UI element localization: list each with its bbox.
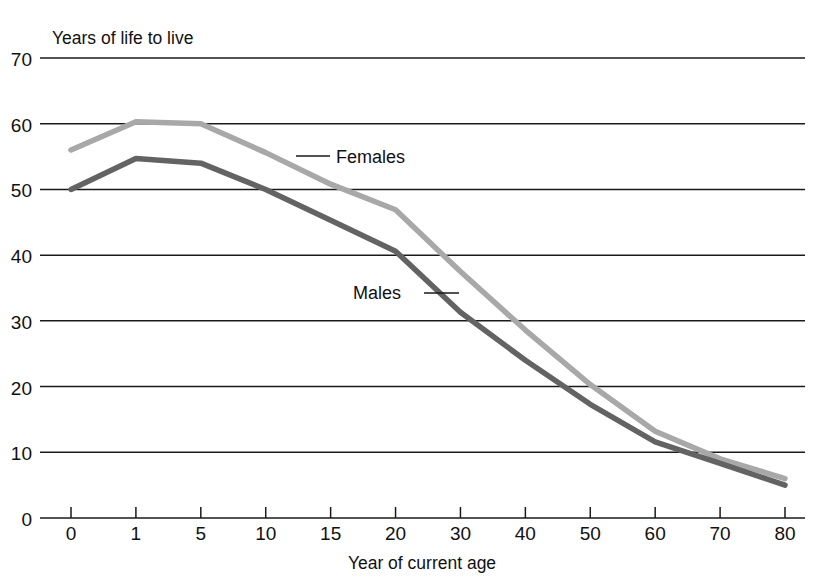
y-tick-label-0: 0 bbox=[21, 509, 32, 530]
females-label: Females bbox=[336, 147, 405, 167]
x-tick-label-20: 20 bbox=[385, 523, 406, 544]
males-label: Males bbox=[353, 283, 401, 303]
y-tick-label-40: 40 bbox=[11, 246, 32, 267]
x-tick-label-15: 15 bbox=[320, 523, 341, 544]
x-tick-label-30: 30 bbox=[450, 523, 471, 544]
x-tick-label-60: 60 bbox=[645, 523, 666, 544]
x-tick-label-50: 50 bbox=[580, 523, 601, 544]
x-tick-label-5: 5 bbox=[196, 523, 207, 544]
series-lines bbox=[71, 122, 785, 485]
y-tick-label-70: 70 bbox=[11, 49, 32, 70]
x-axis-tick-labels: 015101520304050607080 bbox=[66, 523, 796, 544]
annotation-males: Males bbox=[353, 283, 459, 303]
x-tick-label-1: 1 bbox=[131, 523, 142, 544]
y-axis-tick-labels: 010203040506070 bbox=[11, 49, 32, 530]
y-axis-title: Years of life to live bbox=[52, 28, 193, 48]
x-axis-title: Year of current age bbox=[348, 553, 496, 573]
x-tick-label-40: 40 bbox=[515, 523, 536, 544]
y-tick-label-60: 60 bbox=[11, 115, 32, 136]
x-tick-label-70: 70 bbox=[710, 523, 731, 544]
x-axis-ticks bbox=[71, 507, 785, 518]
life-expectancy-chart: 010203040506070 015101520304050607080 Ye… bbox=[0, 0, 839, 586]
chart-canvas: 010203040506070 015101520304050607080 Ye… bbox=[0, 0, 839, 586]
y-tick-label-10: 10 bbox=[11, 443, 32, 464]
x-tick-label-80: 80 bbox=[774, 523, 795, 544]
y-tick-label-30: 30 bbox=[11, 312, 32, 333]
x-tick-label-10: 10 bbox=[255, 523, 276, 544]
y-tick-label-20: 20 bbox=[11, 378, 32, 399]
y-tick-label-50: 50 bbox=[11, 180, 32, 201]
x-tick-label-0: 0 bbox=[66, 523, 77, 544]
annotation-females: Females bbox=[296, 147, 405, 167]
series-line-males bbox=[71, 159, 785, 486]
series-line-females bbox=[71, 122, 785, 479]
gridlines bbox=[40, 58, 805, 452]
